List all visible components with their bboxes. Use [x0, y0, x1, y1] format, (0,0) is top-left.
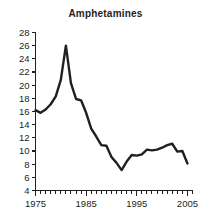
- y-tick-label: 28: [19, 27, 30, 38]
- x-tick-label: 1995: [126, 198, 147, 209]
- y-tick-label: 14: [19, 119, 30, 130]
- y-tick-label: 6: [24, 172, 29, 183]
- y-tick-label: 24: [19, 53, 30, 64]
- y-tick-label: 8: [24, 159, 29, 170]
- y-tick-label: 22: [19, 66, 30, 77]
- chart-container: Amphetamines 46810121416182022242628 197…: [0, 0, 211, 224]
- y-tick-label: 12: [19, 132, 30, 143]
- y-tick-label: 26: [19, 40, 30, 51]
- y-tick-label: 16: [19, 106, 30, 117]
- y-tick-label: 4: [24, 185, 29, 196]
- y-axis-tick-labels: 46810121416182022242628: [19, 27, 30, 196]
- y-tick-label: 20: [19, 80, 30, 91]
- y-tick-label: 18: [19, 93, 30, 104]
- x-tick-label: 1985: [76, 198, 97, 209]
- y-tick-label: 10: [19, 145, 30, 156]
- line-chart-plot: 46810121416182022242628 1975198519952005: [0, 0, 211, 224]
- x-tick-label: 2005: [177, 198, 198, 209]
- x-axis-tick-labels: 1975198519952005: [25, 198, 198, 209]
- data-series-line: [36, 46, 188, 170]
- x-tick-label: 1975: [25, 198, 46, 209]
